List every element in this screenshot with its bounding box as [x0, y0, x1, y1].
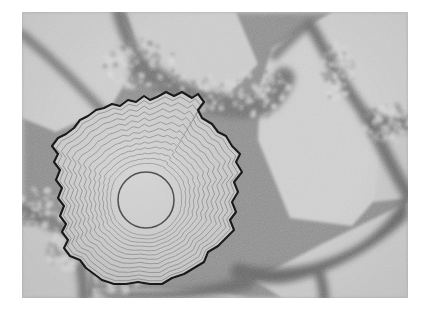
micrograph-image	[22, 12, 408, 298]
micrograph-canvas	[22, 12, 408, 298]
figure-root	[0, 0, 424, 313]
film-grain-overlay	[22, 12, 408, 298]
